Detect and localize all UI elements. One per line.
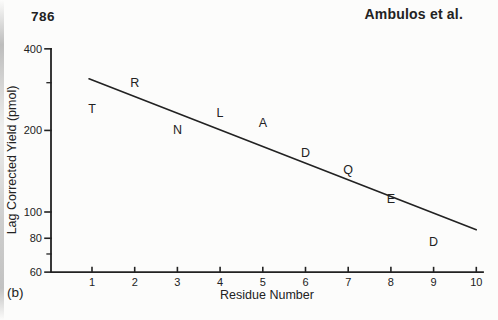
y-tick-label: 100 [24, 206, 42, 218]
y-axis-title: Lag Corrected Yield (pmol) [5, 86, 19, 235]
y-tick-label: 400 [24, 43, 42, 55]
x-axis-title: Residue Number [220, 288, 314, 302]
x-tick-label: 3 [174, 276, 180, 288]
data-point-letter: D [301, 146, 310, 160]
data-point-letter: A [259, 116, 268, 130]
data-point-letter: Q [343, 163, 353, 177]
x-tick-label: 9 [431, 276, 437, 288]
scatter-plot: 400200100806012345678910TRNLADQEDResidue… [0, 0, 498, 320]
x-tick-label: 6 [302, 276, 308, 288]
data-point-letter: N [173, 123, 182, 137]
data-point-letter: D [429, 235, 438, 249]
panel-label: (b) [7, 285, 24, 300]
data-point-letter: E [387, 192, 395, 206]
x-tick-label: 1 [89, 276, 95, 288]
journal-page: 786 Ambulos et al. 400200100806012345678… [0, 0, 498, 320]
data-point-letter: T [88, 102, 96, 116]
x-tick-label: 5 [260, 276, 266, 288]
x-tick-label: 2 [132, 276, 138, 288]
y-tick-label: 60 [30, 266, 42, 278]
x-tick-label: 8 [388, 276, 394, 288]
x-tick-label: 4 [217, 276, 223, 288]
x-tick-label: 7 [345, 276, 351, 288]
data-point-letter: R [130, 76, 139, 90]
y-tick-label: 80 [30, 232, 42, 244]
data-point-letter: L [217, 106, 224, 120]
fit-line [89, 79, 476, 230]
x-tick-label: 10 [470, 276, 482, 288]
y-tick-label: 200 [24, 124, 42, 136]
